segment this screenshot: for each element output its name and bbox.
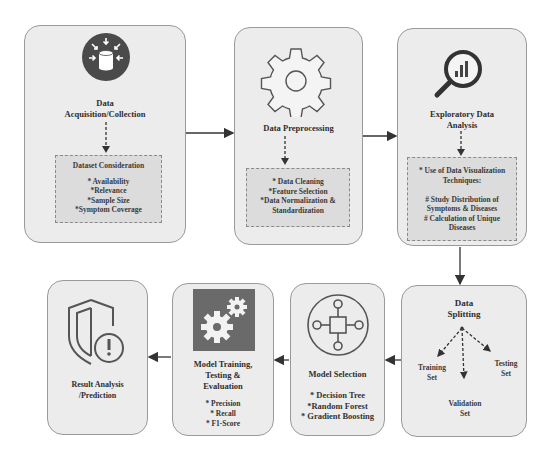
node-title: Data Acquisition/Collection [25,98,185,120]
shield-alert-icon [63,296,133,368]
dashed-arrow [101,122,111,154]
node-data-acquisition: Data Acquisition/Collection Dataset Cons… [24,25,186,243]
dataset-consideration-panel: Dataset Consideration * Availability *Re… [55,155,162,223]
node-data-preprocessing: Data Preprocessing * Data Cleaning *Feat… [234,27,363,245]
testing-set-label: Testing Set [486,359,526,378]
node-data-splitting: Data Splitting Training Set Validation S… [401,285,527,437]
metrics-list: * Precision * Recall * F1-Score [173,399,273,429]
node-model-training: Model Training, Testing & Evaluation * P… [172,283,274,436]
gear-icon [260,45,332,117]
dashed-arrow [280,136,290,166]
node-title: Data Preprocessing [235,123,362,134]
training-set-label: Training Set [412,363,452,382]
node-title: Model Training, Testing & Evaluation [173,359,273,392]
node-title: Result Analysis /Prediction [48,379,147,401]
model-list: * Decision Tree *Random Forest * Gradien… [291,390,384,422]
network-node-icon [304,291,372,359]
magnifier-chart-icon [431,47,487,103]
preprocessing-steps-panel: * Data Cleaning *Feature Selection *Data… [246,168,350,227]
eda-techniques-panel: * Use of Data Visualization Techniques: … [407,157,517,241]
node-exploratory-data-analysis: Exploratory Data Analysis * Use of Data … [397,28,527,246]
node-title: Model Selection [291,369,384,380]
gears-icon [193,289,255,351]
validation-set-label: Validation Set [442,399,488,418]
database-arrows-icon [81,32,131,82]
node-title: Exploratory Data Analysis [398,109,526,131]
node-result-analysis: Result Analysis /Prediction [47,280,148,435]
node-model-selection: Model Selection * Decision Tree *Random … [290,283,385,436]
dashed-arrow [456,131,466,157]
